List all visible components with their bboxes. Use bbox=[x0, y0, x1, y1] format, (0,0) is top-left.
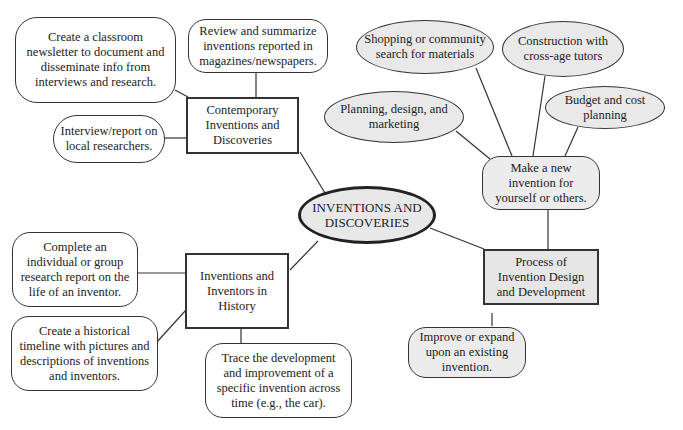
activity-label: Improve or expand upon an existing inven… bbox=[415, 330, 519, 375]
branch-label: Inventions and Inventors in History bbox=[193, 269, 281, 314]
activity-timeline: Create a historical timeline with pictur… bbox=[11, 316, 158, 391]
subtask-shopping: Shopping or community search for materia… bbox=[356, 20, 494, 74]
activity-label: Make a new invention for yourself or oth… bbox=[489, 161, 593, 206]
concept-map: INVENTIONS AND DISCOVERIES Contemporary … bbox=[0, 0, 683, 430]
activity-label: Trace the development and improvement of… bbox=[212, 351, 345, 411]
subtask-construction: Construction with cross-age tutors bbox=[502, 21, 624, 77]
activity-make-new-invention: Make a new invention for yourself or oth… bbox=[482, 156, 600, 210]
activity-label: Create a classroom newsletter to documen… bbox=[22, 30, 169, 90]
activity-research-report: Complete an individual or group research… bbox=[12, 232, 138, 307]
branch-label: Contemporary Inventions and Discoveries bbox=[194, 103, 291, 148]
activity-label: Interview/report on local researchers. bbox=[60, 124, 158, 154]
activity-trace-development: Trace the development and improvement of… bbox=[205, 343, 352, 418]
subtask-label: Construction with cross-age tutors bbox=[509, 34, 617, 64]
subtask-label: Planning, design, and marketing bbox=[331, 102, 457, 132]
branch-process: Process of Invention Design and Developm… bbox=[483, 249, 599, 305]
activity-newsletter: Create a classroom newsletter to documen… bbox=[15, 17, 176, 103]
activity-label: Review and summarize inventions reported… bbox=[195, 24, 321, 69]
subtask-planning-design: Planning, design, and marketing bbox=[324, 91, 464, 143]
branch-contemporary: Contemporary Inventions and Discoveries bbox=[186, 97, 299, 154]
subtask-label: Budget and cost planning bbox=[552, 93, 658, 123]
subtask-budget: Budget and cost planning bbox=[545, 86, 665, 129]
activity-interview: Interview/report on local researchers. bbox=[53, 115, 165, 163]
activity-label: Create a historical timeline with pictur… bbox=[18, 324, 151, 384]
branch-history: Inventions and Inventors in History bbox=[185, 253, 289, 329]
activity-review-summarize: Review and summarize inventions reported… bbox=[188, 19, 328, 73]
central-topic: INVENTIONS AND DISCOVERIES bbox=[298, 186, 436, 244]
subtask-label: Shopping or community search for materia… bbox=[363, 32, 487, 62]
central-topic-label: INVENTIONS AND DISCOVERIES bbox=[307, 200, 427, 230]
activity-label: Complete an individual or group research… bbox=[19, 240, 131, 300]
activity-improve-expand: Improve or expand upon an existing inven… bbox=[408, 327, 526, 378]
branch-label: Process of Invention Design and Developm… bbox=[491, 255, 591, 300]
